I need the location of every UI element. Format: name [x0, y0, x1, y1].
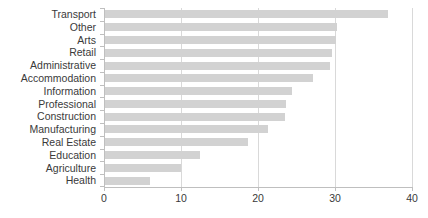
bar[interactable]	[104, 10, 388, 18]
bar[interactable]	[104, 36, 336, 44]
y-axis-tick	[100, 149, 104, 162]
bar[interactable]	[104, 49, 332, 57]
category-label: Arts	[0, 34, 98, 47]
bar-row[interactable]	[104, 72, 412, 85]
category-label: Accommodation	[0, 72, 98, 85]
bar-rows	[104, 8, 412, 187]
category-label: Construction	[0, 110, 98, 123]
bar[interactable]	[104, 23, 337, 31]
bar[interactable]	[104, 74, 313, 82]
bar[interactable]	[104, 138, 248, 146]
x-axis-label: 30	[329, 191, 341, 205]
y-axis-tick	[100, 8, 104, 21]
bar-row[interactable]	[104, 21, 412, 34]
bar-row[interactable]	[104, 161, 412, 174]
category-label: Manufacturing	[0, 123, 98, 136]
y-axis-tick	[100, 59, 104, 72]
y-axis-tick	[100, 85, 104, 98]
category-label: Information	[0, 85, 98, 98]
y-axis-tick	[100, 161, 104, 174]
gridline-40	[412, 8, 413, 187]
x-axis-label: 40	[406, 191, 418, 205]
bar-row[interactable]	[104, 85, 412, 98]
bar-row[interactable]	[104, 136, 412, 149]
y-axis-tick	[100, 72, 104, 85]
x-axis-label: 20	[252, 191, 264, 205]
y-axis-tick	[100, 174, 104, 187]
x-axis-label: 10	[175, 191, 187, 205]
category-axis-labels: TransportOtherArtsRetailAdministrativeAc…	[0, 8, 98, 187]
category-label: Health	[0, 174, 98, 187]
bar[interactable]	[104, 87, 292, 95]
bar-row[interactable]	[104, 59, 412, 72]
x-axis-labels: 010203040	[104, 191, 412, 207]
y-axis-tick	[100, 34, 104, 47]
bar[interactable]	[104, 62, 330, 70]
x-axis-label: 0	[101, 191, 107, 205]
bar-row[interactable]	[104, 8, 412, 21]
y-axis-tick	[100, 21, 104, 34]
category-label: Agriculture	[0, 161, 98, 174]
bar-chart: TransportOtherArtsRetailAdministrativeAc…	[0, 0, 428, 218]
bar[interactable]	[104, 125, 268, 133]
y-axis-tick	[100, 123, 104, 136]
bar-row[interactable]	[104, 110, 412, 123]
y-axis-tick	[100, 97, 104, 110]
y-axis-tick	[100, 46, 104, 59]
y-axis-line	[104, 8, 105, 187]
y-axis-ticks	[100, 8, 104, 187]
bar[interactable]	[104, 151, 200, 159]
bar-row[interactable]	[104, 46, 412, 59]
bar[interactable]	[104, 164, 181, 172]
bar-row[interactable]	[104, 97, 412, 110]
bar-row[interactable]	[104, 174, 412, 187]
bar[interactable]	[104, 177, 150, 185]
plot-area	[104, 8, 412, 187]
category-label: Education	[0, 149, 98, 162]
category-label: Other	[0, 21, 98, 34]
category-label: Transport	[0, 8, 98, 21]
bar[interactable]	[104, 100, 286, 108]
category-label: Administrative	[0, 59, 98, 72]
bar-row[interactable]	[104, 34, 412, 47]
bar-row[interactable]	[104, 123, 412, 136]
y-axis-tick	[100, 136, 104, 149]
bar[interactable]	[104, 113, 285, 121]
category-label: Retail	[0, 46, 98, 59]
category-label: Professional	[0, 97, 98, 110]
category-label: Real Estate	[0, 136, 98, 149]
y-axis-tick	[100, 110, 104, 123]
bar-row[interactable]	[104, 149, 412, 162]
